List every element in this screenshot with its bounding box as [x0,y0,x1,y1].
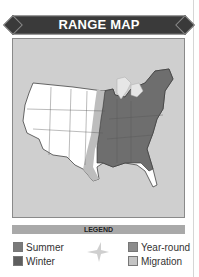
range-map-banner: RANGE MAP [12,15,186,35]
legend-label: Year-round [141,242,190,253]
migration-swatch-icon [128,256,138,266]
summer-swatch-icon [13,242,23,252]
legend-header: LEGEND [12,225,185,234]
winter-swatch-icon [13,256,23,266]
legend-item-migration: Migration [128,255,182,267]
legend-label: Winter [26,256,55,267]
us-map-icon [13,39,186,219]
legend-label: Migration [141,256,182,267]
range-map-title: RANGE MAP [13,17,185,32]
legend-item-year-round: Year-round [128,241,190,253]
legend-label: Summer [26,242,64,253]
legend-item-winter: Winter [13,255,55,267]
legend-item-summer: Summer [13,241,64,253]
year-round-swatch-icon [128,242,138,252]
range-map [12,38,185,218]
bird-silhouette-icon [85,240,111,264]
page-divider [193,0,194,277]
